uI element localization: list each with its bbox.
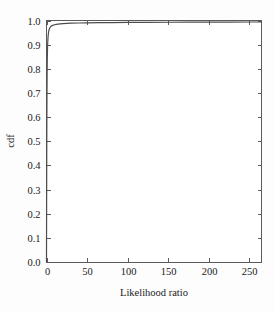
y-tick-label: 0.1 <box>27 233 40 244</box>
y-tick-label: 1.0 <box>27 16 40 27</box>
x-tick-label: 250 <box>242 266 258 277</box>
y-tick-label: 0.9 <box>27 40 40 51</box>
x-axis-title: Likelihood ratio <box>120 287 188 298</box>
y-tick-label: 0.4 <box>27 160 41 171</box>
y-tick-label: 0.2 <box>27 209 40 220</box>
y-tick-label: 0.3 <box>27 185 40 196</box>
y-tick-label: 0.7 <box>27 88 40 99</box>
plot-area-background <box>47 21 262 263</box>
x-tick-label: 50 <box>82 266 93 277</box>
y-tick-label: 0.0 <box>27 257 40 268</box>
x-tick-label: 150 <box>161 266 177 277</box>
y-tick-label: 0.6 <box>27 112 40 123</box>
chart-figure: 050100150200250 0.00.10.20.30.40.50.60.7… <box>0 0 275 313</box>
cdf-line-chart: 050100150200250 0.00.10.20.30.40.50.60.7… <box>0 0 275 313</box>
y-tick-label: 0.8 <box>27 64 40 75</box>
y-tick-label: 0.5 <box>27 136 40 147</box>
y-axis-title: cdf <box>5 134 16 148</box>
x-tick-label: 0 <box>45 266 50 277</box>
x-tick-label: 100 <box>121 266 137 277</box>
x-tick-label: 200 <box>202 266 218 277</box>
